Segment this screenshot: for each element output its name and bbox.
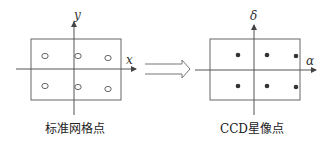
left-panel: x y: [16, 8, 136, 115]
star-image-dot: [265, 84, 270, 89]
star-image-dot: [294, 85, 299, 90]
star-image-dot: [236, 84, 241, 89]
transform-arrow: [145, 60, 190, 78]
star-image-dot: [236, 53, 241, 58]
right-panel: α δ: [195, 9, 316, 115]
grid-point-circle: [105, 55, 111, 60]
grid-point-circle: [42, 83, 48, 88]
grid-point-circle: [42, 53, 48, 58]
star-image-dot: [294, 54, 299, 59]
grid-point-circle: [75, 53, 81, 58]
left-caption: 标准网格点: [45, 119, 105, 136]
left-y-label: y: [73, 8, 81, 22]
grid-point-circle: [75, 84, 81, 89]
left-x-label: x: [126, 53, 133, 67]
grid-points: [42, 53, 111, 91]
grid-point-circle: [105, 86, 111, 91]
star-image-dot: [265, 53, 270, 58]
right-alpha-label: α: [306, 54, 314, 68]
right-delta-label: δ: [250, 9, 257, 23]
star-image-points: [236, 53, 299, 90]
right-caption: CCD星像点: [220, 119, 284, 136]
